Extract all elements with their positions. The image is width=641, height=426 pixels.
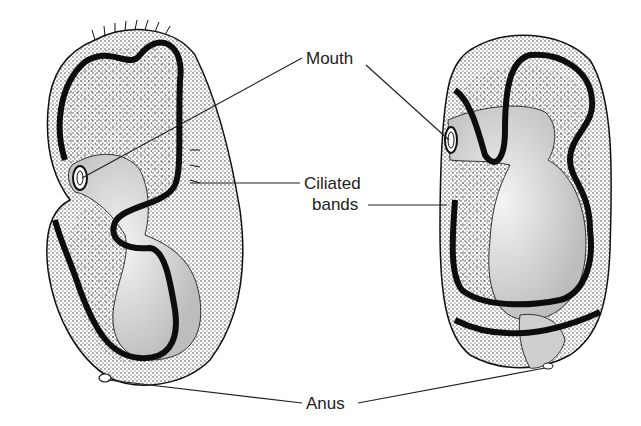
label-anus: Anus (306, 395, 345, 412)
left-anus (99, 374, 111, 382)
left-larva (47, 20, 243, 385)
label-ciliated: Ciliated (304, 175, 361, 192)
mouth-leader-right (366, 65, 449, 140)
label-mouth: Mouth (306, 50, 353, 67)
right-larva (440, 35, 611, 369)
anus-leader-left (108, 380, 302, 403)
label-bands: bands (312, 196, 358, 213)
anus-leader-right (358, 368, 545, 403)
